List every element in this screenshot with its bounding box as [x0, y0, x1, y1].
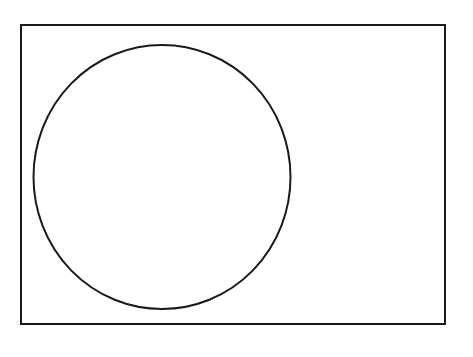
background [0, 0, 473, 357]
diagram-canvas [0, 0, 473, 357]
